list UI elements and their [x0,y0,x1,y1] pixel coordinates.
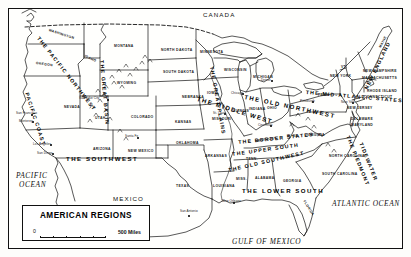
state-label-colorado: COLORADO [131,116,154,119]
state-label-minnesota: MINNESOTA [200,51,223,54]
state-label-w-va: W. VA. [287,135,299,138]
american-regions-map: THE PACIFIC NORTHWESTPACIFIC COASTTHE GR… [0,0,411,257]
state-label-north-dakota: NORTH DAKOTA [161,49,192,52]
state-label-arkansas: ARKANSAS [205,155,227,158]
state-label-indiana: INDIANA [249,108,266,111]
state-label-penn: PENN. [318,94,330,97]
city-label-santa-fe: Santa Fe [125,135,138,138]
state-label-south-carolina: SOUTH CAROLINA [322,173,358,176]
city-label-los-angeles: Los Angeles [33,143,51,146]
city-label-monterey: Monterey [19,120,33,123]
map-legend: AMERICAN REGIONS 0 500 Miles [22,205,150,241]
state-label-rhode-island: RHODE ISLAND [367,90,397,93]
state-label-delaware: DELAWARE [351,118,373,121]
state-label-oklahoma: OKLAHOMA [176,142,199,145]
city-label-pittsburgh: Pittsburgh [300,100,315,103]
state-label-miss: MISS. [236,178,247,181]
city-label-salt-lake-city: Salt Lake City [79,97,100,100]
state-label-connecticut: CONNECTICUT [364,96,393,99]
state-label-maryland: MARYLAND [351,124,373,127]
state-label-south-dakota: SOUTH DAKOTA [163,71,194,74]
ocean-label-gulf-of-mexico: GULF OF MEXICO [232,238,301,245]
state-label-nevada: NEVADA [64,106,80,109]
ocean-label-atlantic-ocean: ATLANTIC OCEAN [332,200,400,207]
state-label-wyoming: WYOMING [117,82,136,85]
state-label-nebraska: NEBRASKA [182,96,204,99]
state-label-massachusetts: MASSACHUSETTS [362,77,397,80]
city-dot-san-antonio [188,215,190,217]
state-label-new-hampshire: NEW HAMPSHIRE [363,70,397,73]
state-label-kansas: KANSAS [175,121,191,124]
scale-max-label: 500 Miles [118,229,141,235]
city-label-san-diego: San Diego [37,152,52,155]
ocean-label-ocean: OCEAN [19,181,46,188]
state-label-utah: UTAH [95,117,106,120]
city-label-cincinnati: Cincinnati [258,124,273,127]
state-label-north-carolina: NORTH CAROLINA [329,155,365,158]
region-label-the-southwest: THE SOUTHWEST [66,156,138,162]
state-label-iowa: IOWA [207,92,217,95]
city-label-new-orleans: New Orleans [222,200,241,203]
state-label-louisiana: LOUISIANA [213,185,235,188]
region-label-the-lower-south: THE LOWER SOUTH [242,188,324,194]
city-dot-salt-lake-city [107,99,109,101]
state-label-montana: MONTANA [114,45,134,48]
scale-rule [40,236,106,239]
state-label-new-jersey: NEW JERSEY [347,107,373,110]
city-label-new-york: New York [341,101,355,104]
state-label-ohio: OHIO [267,107,277,110]
legend-title: AMERICAN REGIONS [23,211,149,220]
state-label-new-york: NEW YORK [330,75,351,78]
city-dot-detroit [271,80,273,82]
state-label-new-mexico: NEW MEXICO [128,150,154,153]
state-label-vt: VT. [341,66,347,69]
city-label-detroit: Detroit [261,79,271,82]
state-label-virginia: VIRGINIA [307,134,325,137]
state-label-texas: TEXAS [176,185,189,188]
city-label-chicago: Chicago [231,92,243,95]
city-label-san-antonio: San Antonio [180,210,198,213]
city-label-san-francisco: San Francisco [16,112,37,115]
state-label-tenn: TENN. [246,158,258,161]
scale-zero-label: 0 [33,228,36,234]
ocean-label-pacific: PACIFIC [16,172,48,179]
scale-bar: 0 500 Miles [33,228,141,238]
state-label-illinois: ILLINOIS [232,110,249,113]
state-label-arizona: ARIZONA [93,148,111,151]
state-label-missouri: MISSOURI [212,118,232,121]
country-label-mexico: MEXICO [113,196,144,202]
state-label-georgia: GEORGIA [283,180,301,183]
state-label-wisconsin: WISCONSIN [224,69,247,72]
city-label-st-louis: St. Louis [213,112,226,115]
country-label-canada: CANADA [203,12,235,18]
state-label-alabama: ALABAMA [255,177,275,180]
